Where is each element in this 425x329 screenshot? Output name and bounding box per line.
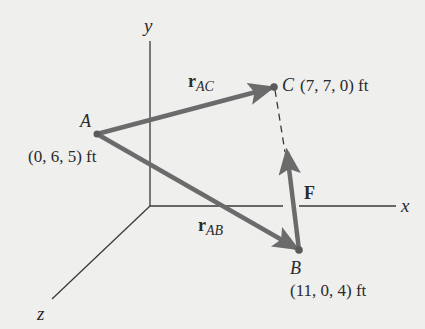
point-c-label: C [282,76,294,94]
x-axis-label: x [401,196,409,215]
line-of-action-dashed [275,90,285,152]
vector-f-label: F [304,184,315,202]
vector-r-ab-label: rAB [198,216,223,234]
z-axis-label: z [37,304,44,323]
z-axis [52,206,150,299]
diagram-canvas: y x z A (0, 6, 5) ft C (7, 7, 0) ft B (1… [0,0,425,329]
point-b-coords: (11, 0, 4) ft [290,282,366,299]
point-b-label: B [290,259,301,277]
vector-r-ab-symbol: r [198,215,206,235]
point-c-coords: (7, 7, 0) ft [300,77,368,94]
vector-r-ac-symbol: r [188,71,196,91]
vector-r-ac-label: rAC [188,72,214,90]
point-b [295,246,303,254]
vector-f-symbol: F [304,183,315,203]
point-a-label: A [80,112,91,130]
vector-r-ac [97,88,271,134]
vector-f [287,152,299,250]
vector-r-ac-subscript: AC [196,79,214,94]
y-axis-label: y [144,16,152,35]
vector-r-ab [97,134,296,248]
point-c [270,83,278,91]
vector-r-ab-subscript: AB [206,223,223,238]
point-a [94,131,101,138]
point-a-coords: (0, 6, 5) ft [28,148,96,165]
